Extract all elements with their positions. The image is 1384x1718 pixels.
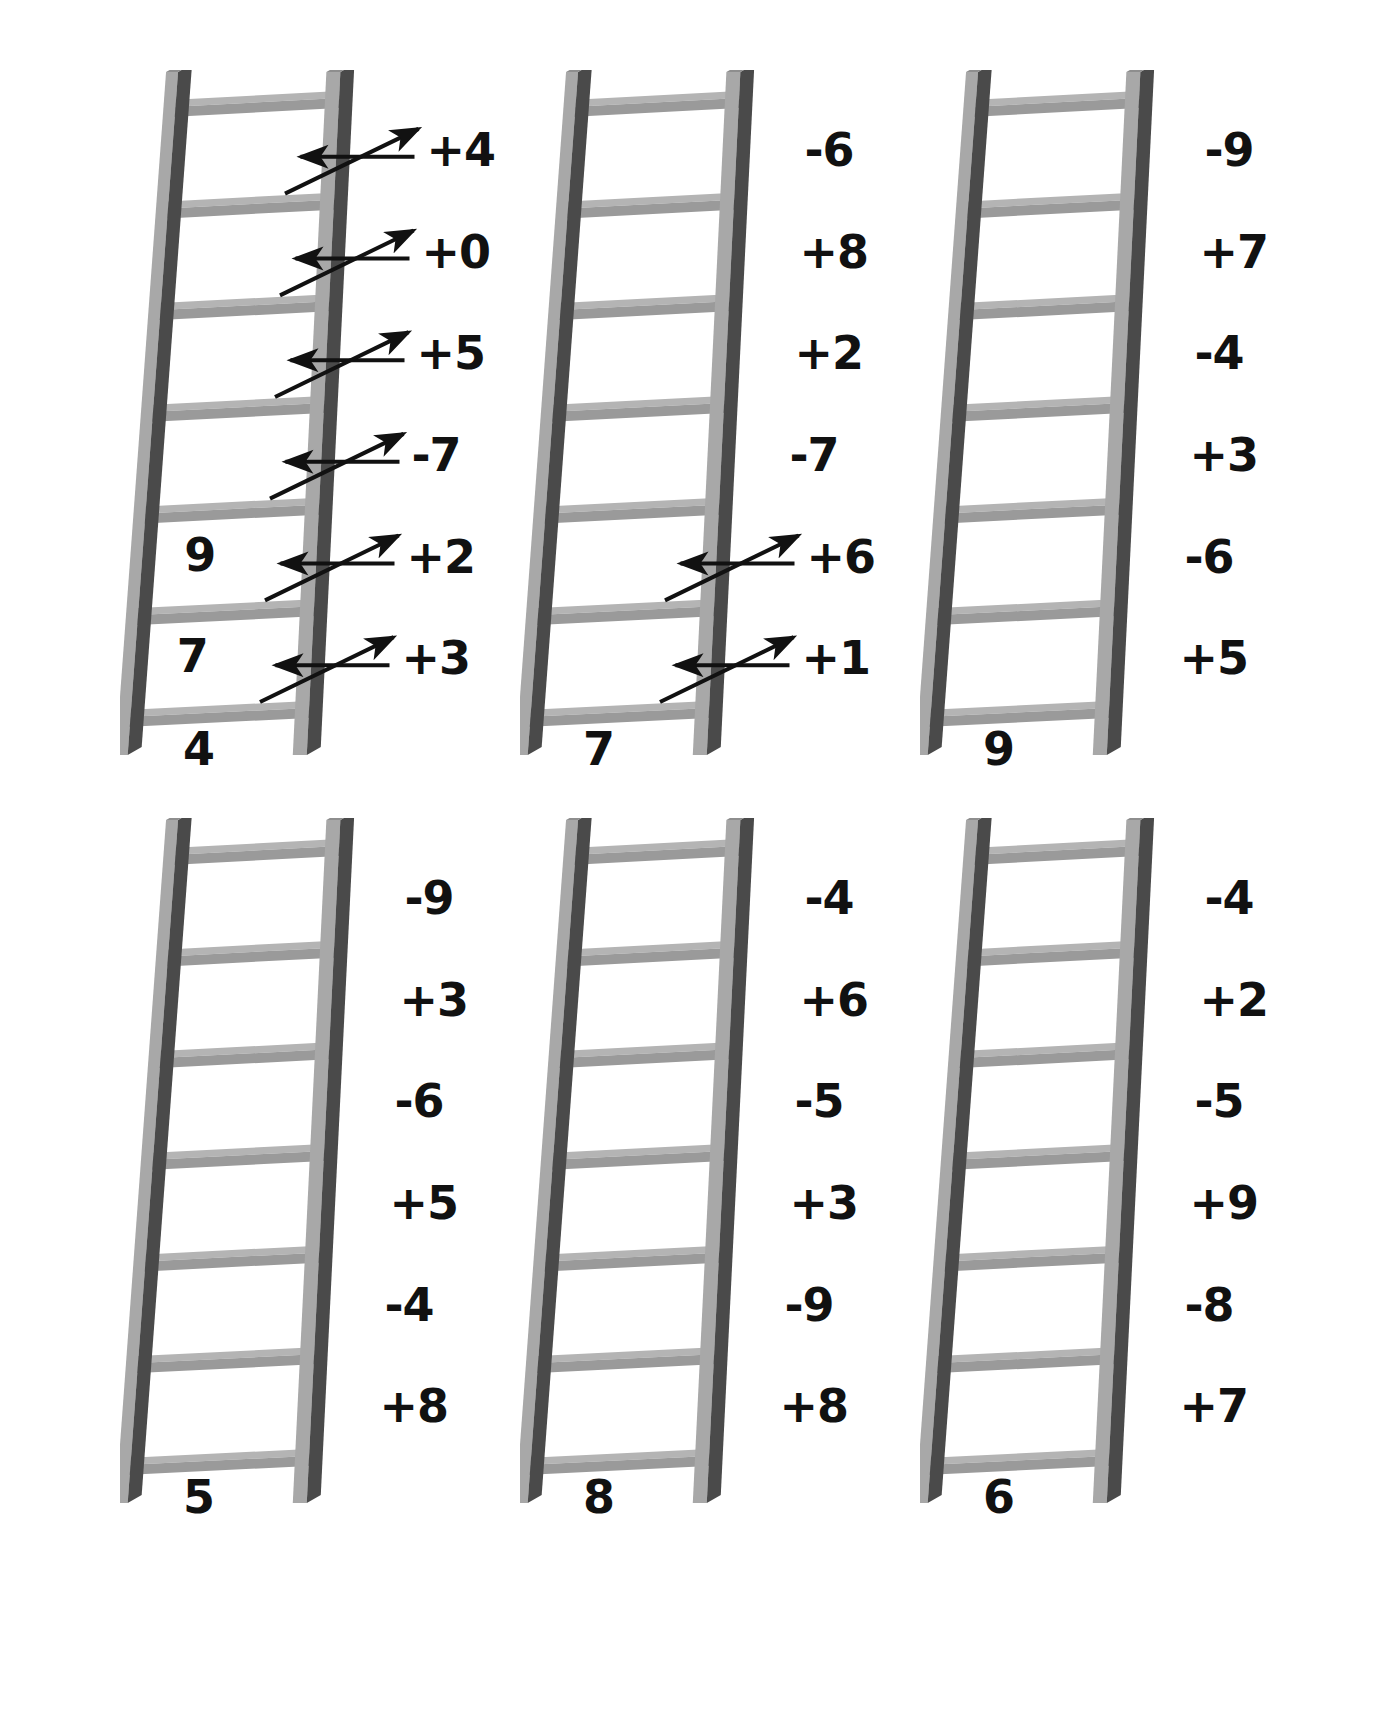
operation-label: -4 (1205, 875, 1254, 921)
ladder-rung (525, 701, 709, 727)
ladder-3: -9+7-4+3-6+59 (920, 70, 1320, 760)
operation-label: +3 (1190, 432, 1259, 478)
operation-label: -6 (395, 1078, 444, 1124)
operation-label: -5 (1195, 1078, 1244, 1124)
ladder-rung (555, 294, 729, 320)
operation-label: +2 (407, 534, 476, 580)
operation-label: +2 (795, 330, 864, 376)
operation-label: -7 (790, 432, 839, 478)
operation-label: -6 (1185, 534, 1234, 580)
ladder-rung (163, 941, 335, 967)
worksheet-page: +4+0+5-7+2+3974-6+8+2-7+6+17-9+7-4+3-6+5… (0, 0, 1384, 1718)
ladder-rung (148, 1144, 325, 1170)
ladder-rung (940, 498, 1119, 524)
ladder-rung (948, 396, 1125, 422)
ladder-2-graphic-wrap (520, 70, 790, 760)
ladder-rung (133, 1347, 315, 1373)
ladder-rung (570, 839, 739, 865)
ladder-rung (948, 1144, 1125, 1170)
ladder-rung (525, 1449, 709, 1475)
ladder-rung (140, 1246, 319, 1272)
ladder-rung (148, 396, 325, 422)
ladder-rung (955, 1042, 1129, 1068)
ladder-graphic (120, 818, 390, 1508)
ladder-rung (125, 701, 309, 727)
ladder-rung (548, 1144, 725, 1170)
operation-label: +8 (800, 229, 869, 275)
ladder-rung (963, 941, 1135, 967)
ladder-graphic (520, 70, 790, 760)
ladder-graphic (920, 818, 1190, 1508)
ladder-rung (533, 1347, 715, 1373)
ladder-4: -9+3-6+5-4+85 (120, 818, 520, 1508)
ladder-rung (925, 1449, 1109, 1475)
ladder-rung (155, 1042, 329, 1068)
operation-label: -4 (1195, 330, 1244, 376)
operation-label: -4 (385, 1282, 434, 1328)
operation-label: -5 (795, 1078, 844, 1124)
operation-label: +7 (1200, 229, 1269, 275)
operation-label: +6 (807, 534, 876, 580)
ladder-graphic (520, 818, 790, 1508)
ladder-rung (163, 193, 335, 219)
operation-label: +4 (427, 127, 496, 173)
ladder-rung (533, 599, 715, 625)
ladder-rung (170, 839, 339, 865)
operation-label: +1 (802, 635, 871, 681)
operation-label: -6 (805, 127, 854, 173)
ladder-rung (548, 396, 725, 422)
operation-label: +5 (417, 330, 486, 376)
operation-label: +9 (1190, 1180, 1259, 1226)
ladder-graphic (120, 70, 390, 760)
ladder-rung (940, 1246, 1119, 1272)
ladder-rung (155, 294, 329, 320)
ladder-1: +4+0+5-7+2+3974 (120, 70, 520, 760)
ladder-rung (133, 599, 315, 625)
ladder-rung (563, 193, 735, 219)
ladder-6: -4+2-5+9-8+76 (920, 818, 1320, 1508)
ladder-1-graphic-wrap (120, 70, 390, 760)
ladder-rung (970, 839, 1139, 865)
operation-label: -9 (405, 875, 454, 921)
ladder-2: -6+8+2-7+6+17 (520, 70, 920, 760)
operation-label: -7 (412, 432, 461, 478)
ladder-rung (555, 1042, 729, 1068)
ladder-rung (563, 941, 735, 967)
operation-label: +0 (422, 229, 491, 275)
ladder-graphic (920, 70, 1190, 760)
operation-label: -9 (785, 1282, 834, 1328)
ladder-rung (925, 701, 1109, 727)
ladder-rung (170, 91, 339, 117)
ladder-rung (570, 91, 739, 117)
ladder-5: -4+6-5+3-9+88 (520, 818, 920, 1508)
operation-label: +6 (800, 977, 869, 1023)
ladder-rung (125, 1449, 309, 1475)
ladder-3-graphic-wrap (920, 70, 1190, 760)
operation-label: +3 (400, 977, 469, 1023)
operation-label: -9 (1205, 127, 1254, 173)
ladder-5-graphic-wrap (520, 818, 790, 1508)
ladder-rung (540, 1246, 719, 1272)
ladder-rung (540, 498, 719, 524)
operation-label: +3 (402, 635, 471, 681)
ladder-rung (933, 599, 1115, 625)
ladder-4-graphic-wrap (120, 818, 390, 1508)
operation-label: +5 (390, 1180, 459, 1226)
ladder-rung (955, 294, 1129, 320)
ladder-rung (963, 193, 1135, 219)
ladder-rung (933, 1347, 1115, 1373)
operation-label: +3 (790, 1180, 859, 1226)
operation-label: +2 (1200, 977, 1269, 1023)
ladder-rung (970, 91, 1139, 117)
operation-label: -8 (1185, 1282, 1234, 1328)
ladder-grid: +4+0+5-7+2+3974-6+8+2-7+6+17-9+7-4+3-6+5… (0, 0, 1384, 1718)
ladder-rung (140, 498, 319, 524)
operation-label: -4 (805, 875, 854, 921)
ladder-6-graphic-wrap (920, 818, 1190, 1508)
